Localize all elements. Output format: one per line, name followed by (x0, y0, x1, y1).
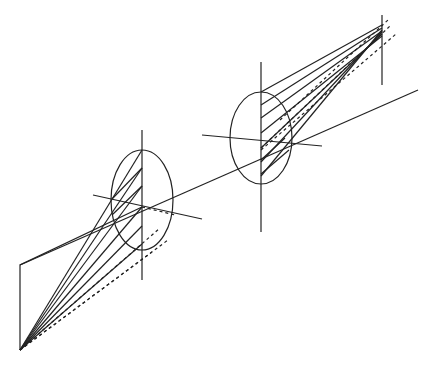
optical-axis (20, 90, 418, 265)
solid-rays (20, 25, 382, 350)
diagram-svg (0, 0, 436, 369)
ray-diagram (0, 0, 436, 369)
lens-1 (93, 130, 202, 280)
